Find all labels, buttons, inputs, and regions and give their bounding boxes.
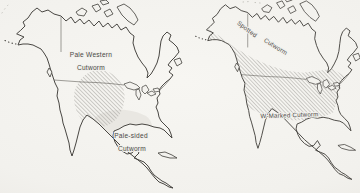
vancouver-island	[47, 68, 52, 77]
corner-speckles	[2, 4, 9, 13]
aleutian-islands-dots	[4, 40, 16, 44]
newfoundland-island	[353, 53, 360, 61]
spotted-label-word1: Spotted	[236, 19, 259, 40]
arctic-islands	[76, 0, 138, 25]
page-artifact-marks	[243, 2, 262, 4]
aleutian-islands-dots	[195, 36, 206, 40]
cuba-island	[158, 152, 177, 158]
pale-western-label-line1: Pale Western	[70, 51, 113, 58]
great-lakes	[124, 82, 160, 100]
pale-sided-label-line1: Pale-sided	[114, 132, 148, 139]
pale-western-label-line2: Cutworm	[77, 64, 105, 71]
pale-sided-label-line2: Cutworm	[118, 145, 146, 152]
newfoundland-island	[174, 58, 182, 66]
arctic-islands	[262, 0, 320, 21]
cutworm-distribution-figure: Pale Western Cutworm Pale-sided Cutworm	[0, 0, 360, 193]
left-map: Pale Western Cutworm Pale-sided Cutworm	[2, 0, 182, 188]
st-lawrence-line	[160, 79, 170, 90]
cuba-island	[338, 144, 356, 150]
spotted-label-word2: Cutworm	[263, 36, 289, 56]
right-map: Spotted Cutworm W-Marked Cutworm	[195, 0, 360, 179]
scanned-figure-page: Pale Western Cutworm Pale-sided Cutworm	[0, 0, 360, 193]
